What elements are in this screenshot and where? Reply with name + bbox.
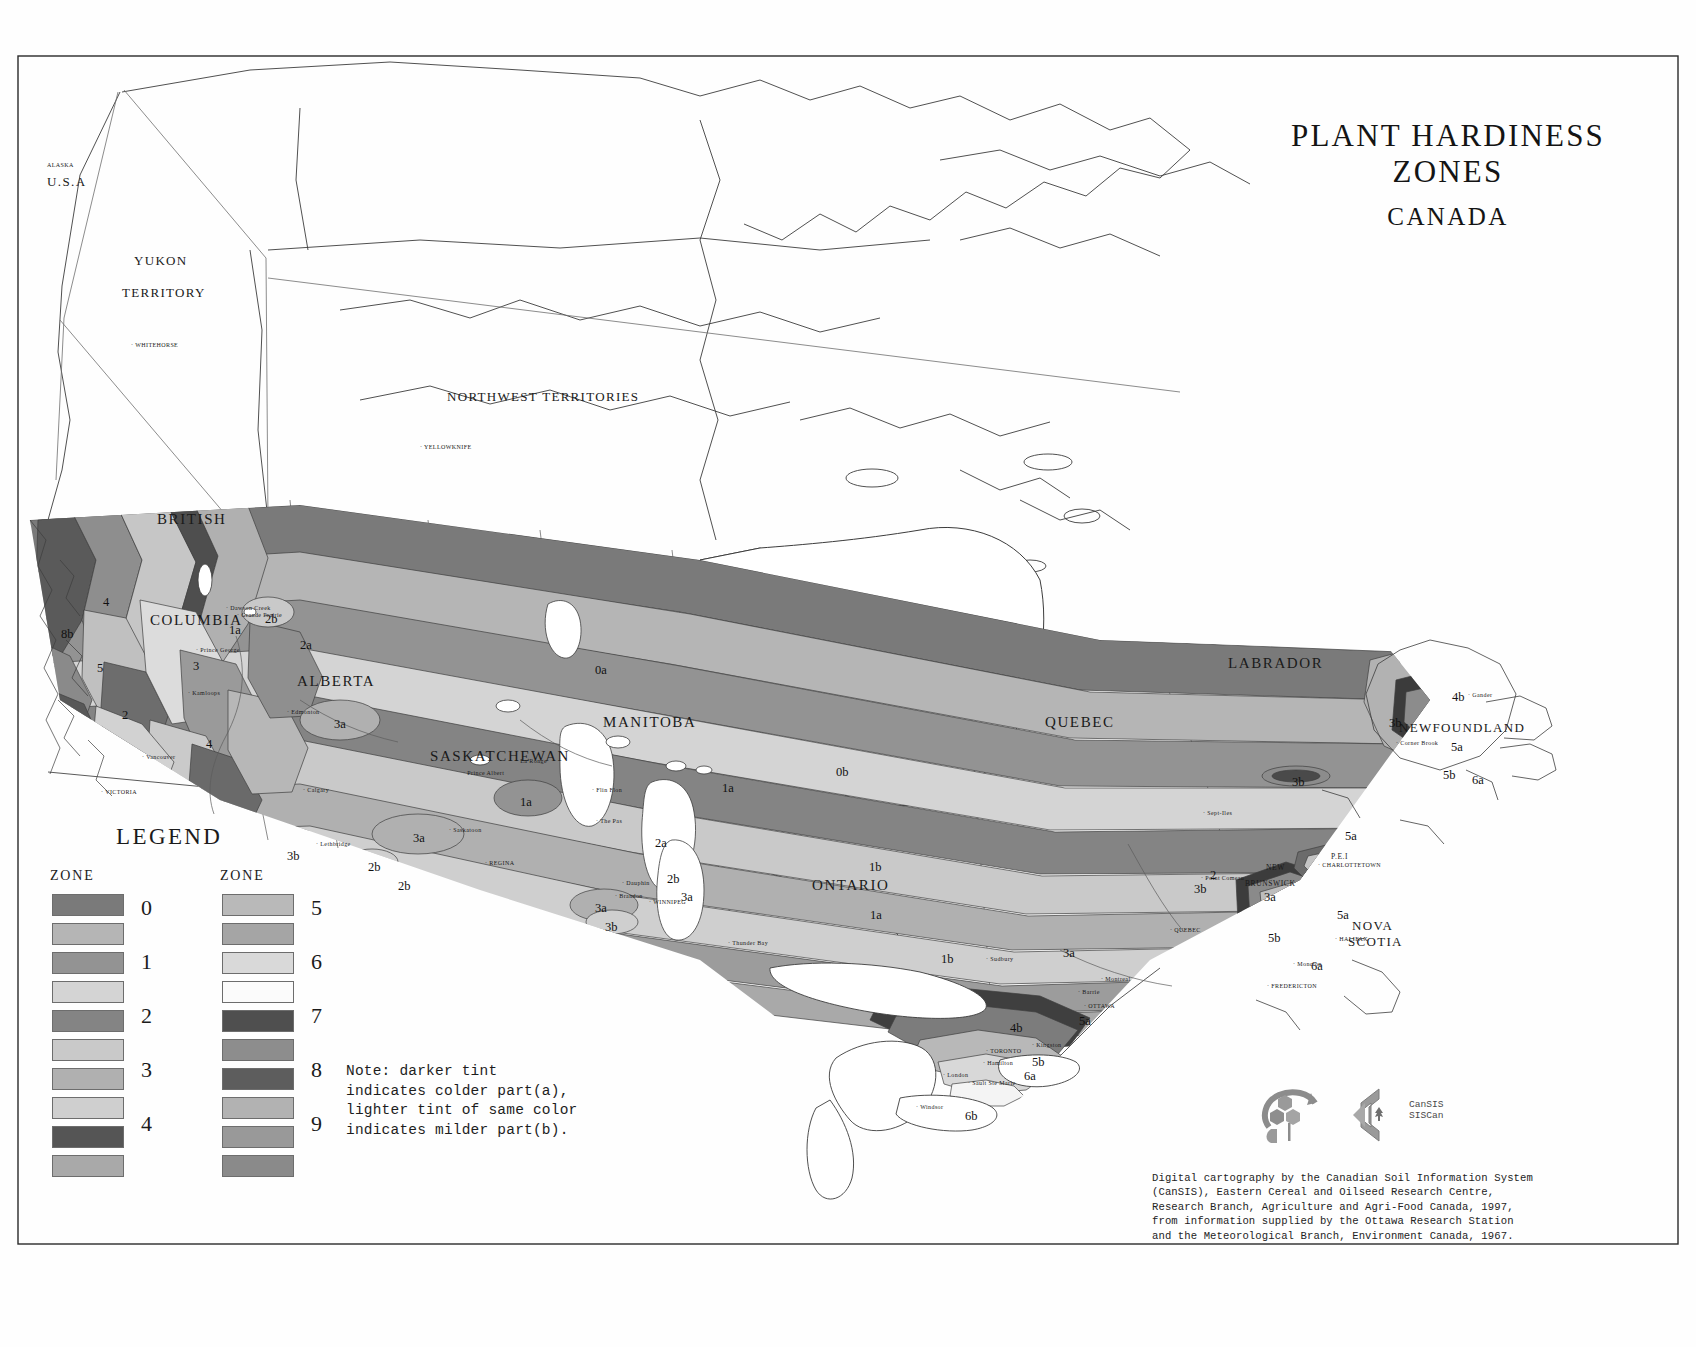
zone-code-label: 6a	[1024, 1069, 1036, 1084]
zone-code-label: 5a	[1345, 829, 1357, 844]
zone-code-label: 1a	[722, 781, 734, 796]
zone-code-label: 6a	[1311, 959, 1323, 974]
city-label: · TORONTO	[986, 1048, 1021, 1054]
zone-code-label: 4b	[1452, 690, 1465, 705]
legend-zone-header-right: ZONE	[220, 868, 265, 884]
legend-swatch-1b	[52, 981, 124, 1003]
zone-code-label: 1b	[941, 952, 954, 967]
city-label: · Sept-Iles	[1203, 810, 1232, 816]
city-label: · Barrie	[1078, 989, 1100, 995]
zone-code-label: 2a	[300, 638, 312, 653]
city-label: · Calgary	[303, 787, 329, 793]
legend-swatch-9b	[222, 1155, 294, 1177]
legend-swatch-3b	[52, 1097, 124, 1119]
city-label: · La Ronge	[516, 758, 547, 764]
city-label: · CHARLOTTETOWN	[1318, 862, 1381, 868]
legend-zone-number: 0	[141, 894, 152, 948]
region-label: YUKON	[134, 253, 187, 269]
region-label: NORTHWEST TERRITORIES	[447, 389, 639, 405]
agriculture-canada-logo	[1255, 1083, 1325, 1145]
legend-swatch-8a	[222, 1068, 294, 1090]
zone-code-label: 5a	[1079, 1014, 1091, 1029]
page-subtitle: CANADA	[1238, 203, 1658, 231]
city-label: · London	[943, 1072, 968, 1078]
city-label: · WHITEHORSE	[131, 342, 178, 348]
zone-code-label: 1a	[870, 908, 882, 923]
zone-code-label: 2	[122, 708, 128, 723]
zone-code-label: 5b	[1268, 931, 1281, 946]
city-label: · YELLOWKNIFE	[420, 444, 471, 450]
city-label: · Thunder Bay	[728, 940, 768, 946]
title-block: PLANT HARDINESS ZONES CANADA	[1238, 118, 1658, 231]
legend-swatch-5b	[222, 923, 294, 945]
legend-swatch-column-left	[52, 894, 124, 1184]
legend-title: LEGEND	[116, 824, 222, 850]
city-label: · OTTAWA	[1084, 1003, 1115, 1009]
zone-code-label: 3b	[1292, 775, 1305, 790]
legend-zone-number: 3	[141, 1056, 152, 1110]
region-label: NEWFOUNDLAND	[1399, 720, 1525, 736]
legend: LEGEND ZONE ZONE 01234 56789 Note: darke…	[28, 824, 668, 1184]
city-label: · Windsor	[916, 1104, 943, 1110]
city-label: · Hamilton	[983, 1060, 1013, 1066]
city-label: · Point Comeau	[1201, 875, 1244, 881]
region-label: P.E.I	[1331, 852, 1348, 861]
city-label: · Prince George	[196, 647, 240, 653]
region-label: ONTARIO	[812, 877, 890, 894]
zone-code-label: 1b	[869, 860, 882, 875]
page-title: PLANT HARDINESS ZONES	[1238, 118, 1658, 190]
zone-code-label: 3a	[681, 890, 693, 905]
zone-code-label: 0a	[595, 663, 607, 678]
legend-note: Note: darker tint indicates colder part(…	[346, 1062, 577, 1140]
legend-zone-number: 7	[311, 1002, 322, 1056]
legend-swatch-7b	[222, 1039, 294, 1061]
region-label: LABRADOR	[1228, 655, 1323, 672]
legend-zone-number: 4	[141, 1110, 152, 1164]
city-label: · Prince Albert	[463, 770, 504, 776]
credits-text: Digital cartography by the Canadian Soil…	[1152, 1171, 1533, 1243]
region-label: NEW	[1266, 863, 1285, 872]
legend-zone-header-left: ZONE	[50, 868, 95, 884]
zone-code-label: 2b	[265, 612, 278, 627]
region-label: TERRITORY	[122, 285, 206, 301]
legend-swatch-4b	[52, 1155, 124, 1177]
city-label: · Gander	[1468, 692, 1492, 698]
city-label: · Flin Flon	[592, 787, 622, 793]
legend-swatch-0b	[52, 923, 124, 945]
legend-swatch-9a	[222, 1126, 294, 1148]
legend-zone-number: 2	[141, 1002, 152, 1056]
city-label: · Dawson Creek	[226, 605, 271, 611]
zone-code-label: 5	[97, 661, 103, 676]
legend-swatch-5a	[222, 894, 294, 916]
legend-swatch-6a	[222, 952, 294, 974]
city-label: · Sault Ste Marie	[968, 1080, 1016, 1086]
zone-code-label: 3a	[1063, 946, 1075, 961]
zone-code-label: 6a	[1472, 773, 1484, 788]
zone-code-label: 4	[103, 595, 109, 610]
zone-code-label: 8b	[61, 627, 74, 642]
city-label: · Edmonton	[287, 709, 320, 715]
zone-code-label: 3b	[1389, 716, 1402, 731]
legend-swatch-0a	[52, 894, 124, 916]
region-label: U.S.A	[47, 174, 87, 190]
zone-code-label: 5b	[1032, 1055, 1045, 1070]
zone-code-label: 2	[1210, 868, 1216, 883]
city-label: · Corner Brook	[1396, 740, 1438, 746]
city-label: · QUEBEC	[1170, 927, 1201, 933]
zone-code-label: 4b	[1010, 1021, 1023, 1036]
legend-swatch-2a	[52, 1010, 124, 1032]
zone-code-label: 3	[193, 659, 199, 674]
cansis-logo	[1345, 1083, 1417, 1147]
region-label: BRITISH	[157, 511, 227, 528]
zone-code-label: 4	[206, 737, 212, 752]
zone-code-label: 5a	[1337, 908, 1349, 923]
legend-zone-number: 9	[311, 1110, 322, 1164]
city-label: · Vancouver	[142, 754, 175, 760]
legend-swatch-1a	[52, 952, 124, 974]
legend-swatch-3a	[52, 1068, 124, 1090]
region-label: SASKATCHEWAN	[430, 748, 570, 765]
region-label: ALBERTA	[297, 673, 375, 690]
legend-swatch-7a	[222, 1010, 294, 1032]
region-label: BRUNSWICK	[1245, 879, 1295, 888]
legend-swatch-4a	[52, 1126, 124, 1148]
